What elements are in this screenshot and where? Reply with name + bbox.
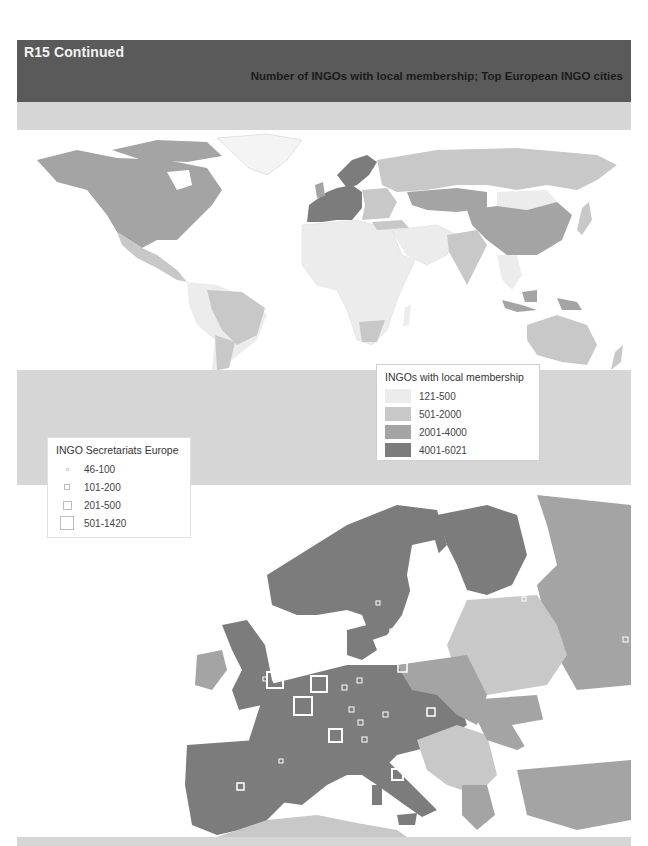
legend-label: 121-500	[419, 391, 456, 402]
square-marker-icon	[56, 468, 78, 471]
section-code: R15 Continued	[24, 44, 124, 60]
membership-legend: INGOs with local membership 121-500 501-…	[376, 364, 540, 461]
marker-stockholm	[439, 603, 445, 609]
legend-item: 501-2000	[385, 405, 531, 423]
legend-label: 4001-6021	[419, 445, 467, 456]
legend-swatch	[385, 425, 411, 439]
legend-swatch	[385, 443, 411, 457]
legend-swatch	[385, 407, 411, 421]
legend-label: 2001-4000	[419, 427, 467, 438]
legend-item: 2001-4000	[385, 423, 531, 441]
divider-band	[17, 102, 631, 130]
secretariats-legend: INGO Secretariats Europe 46-100 101-200 …	[47, 437, 191, 538]
header-bar: R15 Continued Number of INGOs with local…	[17, 40, 631, 102]
legend-label: 46-100	[84, 464, 115, 475]
square-marker-icon	[56, 484, 78, 490]
world-map	[17, 130, 631, 370]
legend-item: 201-500	[56, 496, 182, 514]
legend-title: INGOs with local membership	[385, 371, 531, 383]
legend-item: 46-100	[56, 460, 182, 478]
legend-label: 501-1420	[84, 518, 126, 529]
world-map-graphic	[17, 130, 631, 370]
legend-item: 501-1420	[56, 514, 182, 532]
legend-swatch	[385, 389, 411, 403]
legend-item: 101-200	[56, 478, 182, 496]
legend-item: 121-500	[385, 387, 531, 405]
legend-label: 101-200	[84, 482, 121, 493]
marker-copenhagen	[390, 629, 396, 635]
page-title: Number of INGOs with local membership; T…	[251, 70, 623, 82]
legend-label: 201-500	[84, 500, 121, 511]
square-marker-icon	[56, 501, 78, 510]
legend-item: 4001-6021	[385, 441, 531, 459]
marker-amsterdam	[317, 661, 322, 666]
square-marker-icon	[56, 516, 78, 530]
legend-title: INGO Secretariats Europe	[56, 444, 182, 456]
divider-band	[17, 837, 631, 846]
legend-label: 501-2000	[419, 409, 461, 420]
